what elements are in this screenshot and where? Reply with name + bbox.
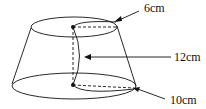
frustum-diagram: 6cm 12cm 10cm	[0, 0, 206, 109]
bottom-radius-dashed	[73, 85, 134, 88]
label-bottom-radius: 10cm	[170, 93, 197, 107]
label-height: 12cm	[174, 50, 201, 64]
height-curve	[73, 27, 80, 85]
arrowhead-height	[84, 54, 91, 60]
top-center-point	[71, 25, 75, 29]
label-top-radius: 6cm	[144, 1, 165, 15]
left-slant-edge	[12, 28, 31, 84]
bottom-radius-arc	[73, 85, 134, 91]
bottom-center-point	[71, 83, 75, 87]
arrow-bottom-radius	[135, 88, 165, 99]
top-radius-arc	[73, 22, 116, 27]
arrowhead-top	[114, 16, 122, 22]
